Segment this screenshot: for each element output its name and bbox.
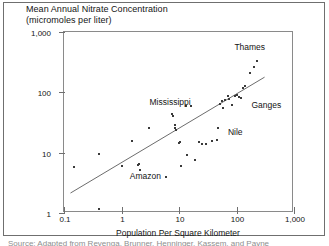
scatter-point xyxy=(238,96,240,98)
chart-title-line-2: (micromoles per liter) xyxy=(26,15,286,26)
x-axis-tick-label: 100 xyxy=(231,215,244,224)
scatter-point xyxy=(236,94,238,96)
scatter-point xyxy=(231,104,233,106)
scatter-point xyxy=(174,124,176,126)
x-axis-tick-label: 10 xyxy=(176,215,185,224)
figure-container: Mean Annual Nitrate Concentration (micro… xyxy=(0,0,329,246)
y-axis-tick: 10 xyxy=(59,153,65,154)
scatter-point xyxy=(216,139,218,141)
scatter-point xyxy=(219,103,221,105)
x-axis-tick: 1 xyxy=(122,207,123,214)
scatter-point xyxy=(249,72,251,74)
x-axis-tick-label: 1 xyxy=(120,215,124,224)
source-caption: Source: Adapted from Revenga, Brunner, H… xyxy=(8,239,321,246)
x-axis-tick: 0.1 xyxy=(64,207,65,214)
y-axis-tick: 1,000 xyxy=(59,32,65,33)
scatter-point xyxy=(256,60,258,62)
data-annotation-mississippi: Mississippi xyxy=(150,97,191,107)
x-axis-tick-label: 1,000 xyxy=(285,215,305,224)
chart-title-line-1: Mean Annual Nitrate Concentration xyxy=(26,4,286,15)
scatter-point xyxy=(198,141,200,143)
scatter-point xyxy=(205,143,207,145)
y-axis-tick-label: 1 xyxy=(47,210,51,219)
scatter-point xyxy=(131,140,133,142)
x-axis-tick: 10 xyxy=(179,207,180,214)
chart-title-block: Mean Annual Nitrate Concentration (micro… xyxy=(26,4,286,26)
scatter-point xyxy=(73,166,75,168)
scatter-point xyxy=(179,141,181,143)
scatter-point xyxy=(244,85,246,87)
scatter-point xyxy=(121,165,123,167)
trend-line xyxy=(64,32,292,211)
scatter-point xyxy=(138,163,140,165)
scatter-point xyxy=(227,95,229,97)
scatter-point xyxy=(180,165,182,167)
data-annotation-thames: Thames xyxy=(234,42,265,52)
y-axis-tick-label: 10 xyxy=(42,149,51,158)
scatter-point xyxy=(211,140,213,142)
scatter-point xyxy=(186,154,188,156)
scatter-point xyxy=(221,100,223,102)
x-axis-tick-label: 0.1 xyxy=(59,215,70,224)
scatter-point xyxy=(172,115,174,117)
scatter-point xyxy=(98,153,100,155)
scatter-point xyxy=(240,97,242,99)
x-axis-tick: 1,000 xyxy=(294,207,295,214)
scatter-point xyxy=(217,127,219,129)
scatter-point xyxy=(194,159,196,161)
scatter-point xyxy=(222,107,224,109)
scatter-point xyxy=(253,66,255,68)
plot-inner: 1101001,0000.11101001,000ThamesMississip… xyxy=(64,32,292,211)
y-axis-tick-label: 1,000 xyxy=(31,29,51,38)
x-axis-tick: 100 xyxy=(237,207,238,214)
x-axis-title: Population Per Square Kilometer xyxy=(63,228,293,238)
scatter-point xyxy=(228,98,230,100)
data-annotation-amazon: Amazon xyxy=(130,171,161,181)
y-axis-tick: 100 xyxy=(59,92,65,93)
y-axis-tick-label: 100 xyxy=(38,89,51,98)
scatter-point xyxy=(224,99,226,101)
scatter-point xyxy=(148,127,150,129)
plot-area: 1101001,0000.11101001,000ThamesMississip… xyxy=(63,31,293,212)
scatter-point xyxy=(98,208,100,210)
data-annotation-nile: Nile xyxy=(228,127,243,137)
scatter-point xyxy=(201,143,203,145)
scatter-point xyxy=(175,129,177,131)
data-annotation-ganges: Ganges xyxy=(251,100,281,110)
scatter-point xyxy=(165,176,167,178)
